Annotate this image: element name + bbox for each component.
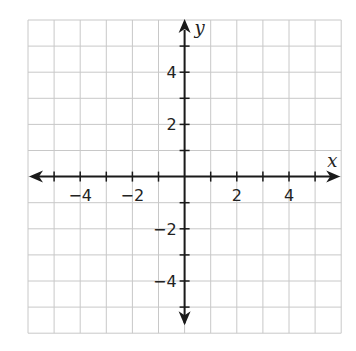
x-tick-label: −2: [121, 186, 145, 205]
x-axis-label: x: [327, 150, 337, 171]
axes: [29, 19, 340, 325]
coordinate-plane: −4−22442−2−4 x y: [0, 0, 356, 351]
y-tick-label: −4: [153, 272, 177, 291]
y-axis-label: y: [194, 17, 206, 38]
y-tick-label: −2: [153, 220, 177, 239]
y-tick-label: 2: [166, 115, 176, 134]
x-tick-label: 4: [284, 186, 294, 205]
x-tick-label: 2: [232, 186, 242, 205]
y-tick-label: 4: [166, 63, 176, 82]
x-tick-label: −4: [68, 186, 92, 205]
